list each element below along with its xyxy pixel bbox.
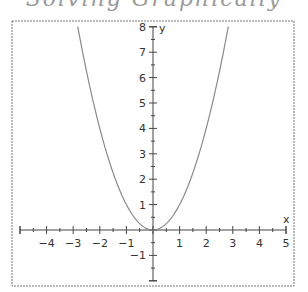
x-tick-label: 4 bbox=[256, 237, 263, 250]
y-tick-label: 3 bbox=[139, 148, 146, 161]
parabola-chart: −4−3−2−112345−112345678 x y bbox=[0, 0, 308, 292]
y-tick-label: 8 bbox=[139, 21, 146, 34]
x-tick-label: −2 bbox=[92, 237, 108, 250]
y-tick-label: 2 bbox=[139, 173, 146, 186]
axis-ticks bbox=[20, 27, 286, 281]
y-tick-label: 7 bbox=[139, 46, 146, 59]
x-tick-label: 5 bbox=[283, 237, 290, 250]
x-axis-label: x bbox=[283, 213, 290, 226]
y-tick-label: 4 bbox=[139, 122, 146, 135]
x-tick-label: 3 bbox=[229, 237, 236, 250]
y-tick-label: 1 bbox=[139, 199, 146, 212]
y-axis-label: y bbox=[159, 22, 166, 35]
x-tick-label: −1 bbox=[118, 237, 134, 250]
y-tick-label: 6 bbox=[139, 72, 146, 85]
x-tick-label: −3 bbox=[65, 237, 81, 250]
x-tick-label: 2 bbox=[203, 237, 210, 250]
y-tick-label: −1 bbox=[130, 249, 146, 262]
y-tick-label: 5 bbox=[139, 97, 146, 110]
x-tick-label: 1 bbox=[176, 237, 183, 250]
x-tick-label: −4 bbox=[38, 237, 54, 250]
